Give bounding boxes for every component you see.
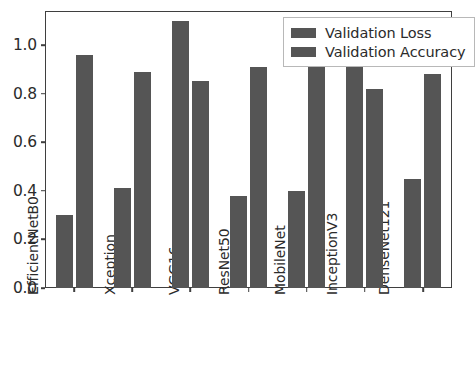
bar xyxy=(56,215,73,288)
x-axis-tick-mark xyxy=(248,288,250,292)
bar xyxy=(172,21,189,288)
chart-legend: Validation Loss Validation Accuracy xyxy=(283,17,475,67)
x-axis-tick-label: InceptionV3 xyxy=(324,213,340,295)
bar xyxy=(424,74,441,288)
y-axis-tick-mark xyxy=(41,287,45,289)
x-axis-tick-mark xyxy=(190,288,192,292)
bar xyxy=(288,191,305,288)
bar xyxy=(134,72,151,288)
bar xyxy=(308,64,325,288)
x-axis-tick-mark xyxy=(364,288,366,292)
legend-entry-validation-loss: Validation Loss xyxy=(291,23,466,42)
y-axis-tick-label: 0.8 xyxy=(13,85,37,103)
legend-swatch-icon xyxy=(291,47,316,57)
legend-label: Validation Accuracy xyxy=(325,44,466,60)
bar xyxy=(346,55,363,288)
y-axis-tick-mark xyxy=(41,44,45,46)
y-axis-tick-mark xyxy=(41,239,45,241)
x-axis-tick-label: ResNet50 xyxy=(215,228,231,295)
x-axis-tick-mark xyxy=(306,288,308,292)
y-axis-tick-mark xyxy=(41,190,45,192)
bar xyxy=(114,188,131,288)
bar xyxy=(230,196,247,288)
bar xyxy=(250,67,267,288)
bar xyxy=(192,81,209,288)
y-axis-tick-mark xyxy=(41,93,45,95)
y-axis-tick-mark xyxy=(41,141,45,143)
bar xyxy=(76,55,93,288)
x-axis-tick-mark xyxy=(73,288,75,292)
x-axis-tick-mark xyxy=(422,288,424,292)
legend-swatch-icon xyxy=(291,28,316,38)
legend-label: Validation Loss xyxy=(325,25,432,41)
legend-entry-validation-accuracy: Validation Accuracy xyxy=(291,42,466,61)
bar xyxy=(404,179,421,288)
y-axis-tick-label: 0.6 xyxy=(13,133,37,151)
x-axis-tick-label: EfficientNetB0 xyxy=(25,196,41,295)
y-axis-tick-label: 1.0 xyxy=(13,36,37,54)
x-axis-tick-mark xyxy=(131,288,133,292)
bar xyxy=(366,89,383,288)
x-axis-tick-label: MobileNet xyxy=(272,225,288,295)
